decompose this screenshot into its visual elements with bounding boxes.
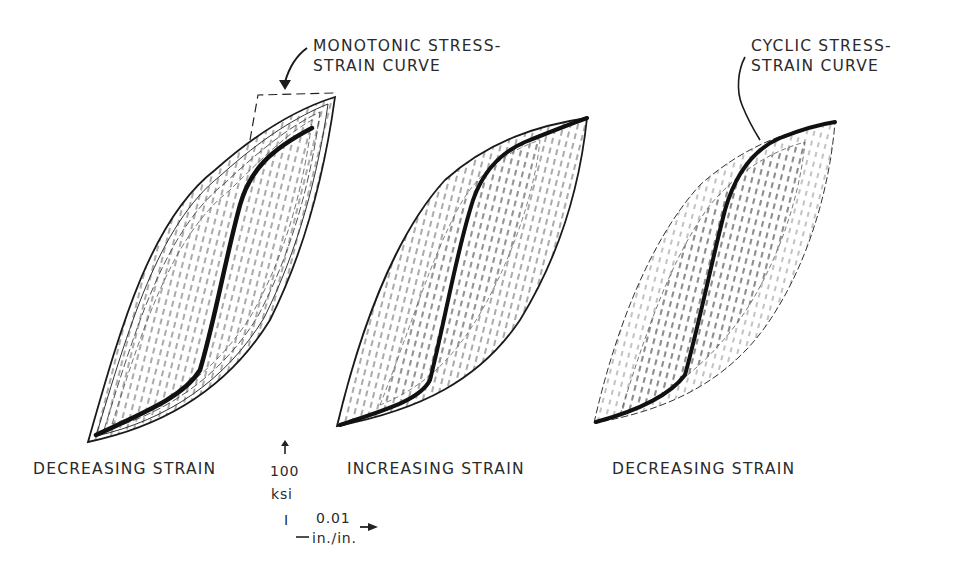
cyclic-curve-label: CYCLIC STRESS- STRAIN CURVE [751,36,892,76]
strain-scale-value: 0.01 [316,510,350,526]
monotonic-label-line2: STRAIN CURVE [313,56,502,76]
arrowhead-icon [279,80,291,90]
cyclic-label-line1: CYCLIC STRESS- [751,36,892,56]
monotonic-label-line1: MONOTONIC STRESS- [313,36,502,56]
panel-2-caption: INCREASING STRAIN [347,460,525,478]
stress-scale-value: 100 [270,463,299,479]
panel-3-caption: DECREASING STRAIN [612,460,795,478]
hysteresis-loop-1 [88,93,335,442]
monotonic-curve-label: MONOTONIC STRESS- STRAIN CURVE [313,36,502,76]
hysteresis-diagram [0,0,954,567]
stress-arrow-icon [281,440,289,446]
cyclic-label-line2: STRAIN CURVE [751,56,892,76]
panel-1-caption: DECREASING STRAIN [33,460,216,478]
hysteresis-loop-2 [337,118,587,426]
strain-scale-unit: in./in. [312,530,357,546]
hysteresis-loop-3 [594,122,835,423]
stress-scale-unit: ksi [271,486,293,502]
strain-scale-tick: I [284,512,289,528]
strain-arrow-icon [368,523,378,531]
monotonic-callout-arrow [279,48,307,90]
